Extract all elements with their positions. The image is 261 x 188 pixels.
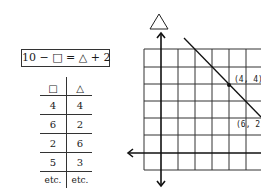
point-label-4-4: (4, 4)	[234, 75, 261, 84]
y-axis	[157, 33, 165, 186]
triangle-axis-label-icon	[150, 14, 168, 29]
point-marker-4-4	[227, 83, 231, 87]
point-label-6-2: (6, 2)	[236, 120, 261, 129]
coordinate-graph: (4, 4) (6, 2)	[0, 0, 261, 188]
